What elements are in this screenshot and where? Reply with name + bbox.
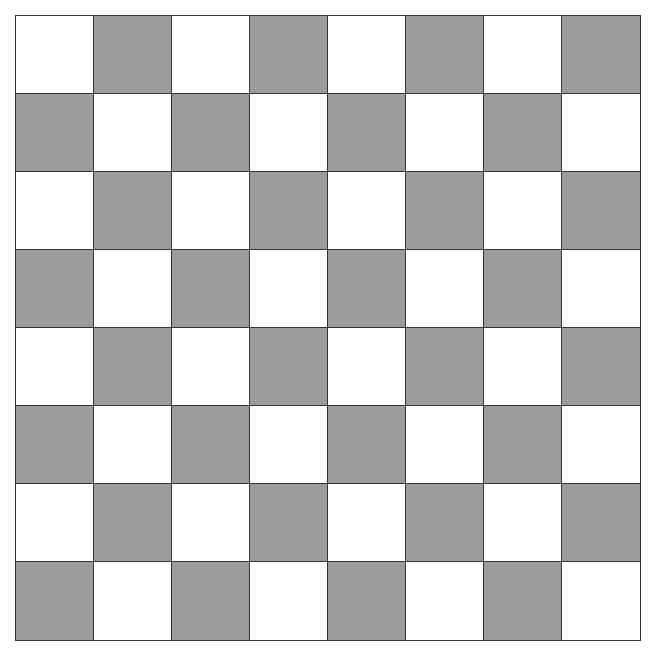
square-h3[interactable]	[562, 406, 640, 484]
square-b1[interactable]	[94, 562, 172, 640]
square-g2[interactable]	[484, 484, 562, 562]
square-b6[interactable]	[94, 172, 172, 250]
square-a1[interactable]	[16, 562, 94, 640]
square-g6[interactable]	[484, 172, 562, 250]
square-g3[interactable]	[484, 406, 562, 484]
square-e1[interactable]	[328, 562, 406, 640]
square-f4[interactable]	[406, 328, 484, 406]
square-d8[interactable]	[250, 16, 328, 94]
square-c8[interactable]	[172, 16, 250, 94]
square-c3[interactable]	[172, 406, 250, 484]
square-a3[interactable]	[16, 406, 94, 484]
square-h2[interactable]	[562, 484, 640, 562]
square-a5[interactable]	[16, 250, 94, 328]
square-h5[interactable]	[562, 250, 640, 328]
square-g7[interactable]	[484, 94, 562, 172]
square-f2[interactable]	[406, 484, 484, 562]
square-f7[interactable]	[406, 94, 484, 172]
square-c1[interactable]	[172, 562, 250, 640]
square-a6[interactable]	[16, 172, 94, 250]
square-h6[interactable]	[562, 172, 640, 250]
square-b5[interactable]	[94, 250, 172, 328]
square-e3[interactable]	[328, 406, 406, 484]
square-f1[interactable]	[406, 562, 484, 640]
square-a8[interactable]	[16, 16, 94, 94]
square-e7[interactable]	[328, 94, 406, 172]
square-d4[interactable]	[250, 328, 328, 406]
square-a2[interactable]	[16, 484, 94, 562]
chessboard	[15, 15, 641, 641]
square-a7[interactable]	[16, 94, 94, 172]
square-d1[interactable]	[250, 562, 328, 640]
square-g8[interactable]	[484, 16, 562, 94]
square-h7[interactable]	[562, 94, 640, 172]
square-e8[interactable]	[328, 16, 406, 94]
square-f3[interactable]	[406, 406, 484, 484]
square-d2[interactable]	[250, 484, 328, 562]
square-c2[interactable]	[172, 484, 250, 562]
square-b2[interactable]	[94, 484, 172, 562]
square-b8[interactable]	[94, 16, 172, 94]
square-a4[interactable]	[16, 328, 94, 406]
square-b3[interactable]	[94, 406, 172, 484]
square-d6[interactable]	[250, 172, 328, 250]
square-c5[interactable]	[172, 250, 250, 328]
square-g1[interactable]	[484, 562, 562, 640]
square-g5[interactable]	[484, 250, 562, 328]
square-c7[interactable]	[172, 94, 250, 172]
square-e5[interactable]	[328, 250, 406, 328]
square-f5[interactable]	[406, 250, 484, 328]
square-d3[interactable]	[250, 406, 328, 484]
square-b7[interactable]	[94, 94, 172, 172]
square-d5[interactable]	[250, 250, 328, 328]
square-h8[interactable]	[562, 16, 640, 94]
square-g4[interactable]	[484, 328, 562, 406]
square-f6[interactable]	[406, 172, 484, 250]
square-c4[interactable]	[172, 328, 250, 406]
square-h4[interactable]	[562, 328, 640, 406]
square-d7[interactable]	[250, 94, 328, 172]
square-b4[interactable]	[94, 328, 172, 406]
square-e2[interactable]	[328, 484, 406, 562]
square-e6[interactable]	[328, 172, 406, 250]
square-e4[interactable]	[328, 328, 406, 406]
square-c6[interactable]	[172, 172, 250, 250]
square-h1[interactable]	[562, 562, 640, 640]
square-f8[interactable]	[406, 16, 484, 94]
